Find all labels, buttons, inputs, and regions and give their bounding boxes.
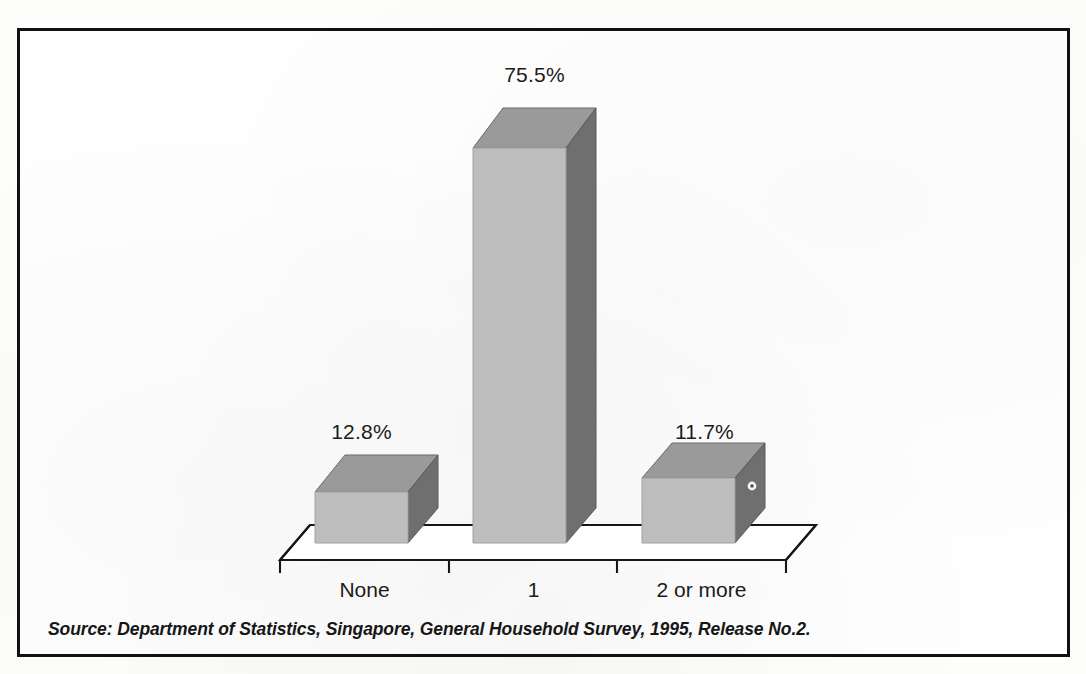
axis-ticks [280, 560, 786, 573]
bar-1[interactable] [473, 108, 596, 543]
category-label-1: 1 [456, 578, 611, 602]
category-label-none: None [287, 578, 442, 602]
value-label-none: 12.8% [284, 420, 439, 444]
category-label-2-or-more: 2 or more [624, 578, 779, 602]
figure-page: 12.8% 75.5% 11.7% None 1 2 or more Sourc… [0, 0, 1086, 674]
scan-artifact-dot [748, 482, 757, 491]
bar-2-or-more[interactable] [642, 443, 765, 543]
source-note: Source: Department of Statistics, Singap… [48, 619, 811, 640]
bar-none[interactable] [315, 455, 438, 543]
value-label-2-or-more: 11.7% [627, 420, 782, 444]
bar-chart-3d [0, 0, 1086, 674]
value-label-1: 75.5% [457, 63, 612, 87]
